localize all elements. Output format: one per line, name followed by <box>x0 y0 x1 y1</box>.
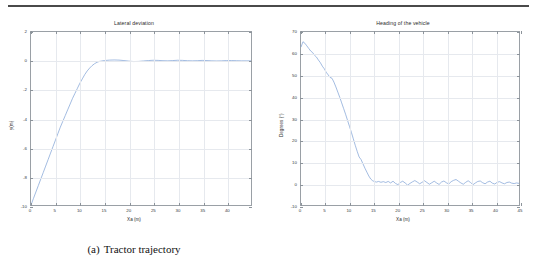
x-tick-label: 45 <box>518 208 523 213</box>
gridline-vertical <box>80 32 81 205</box>
x-tick <box>521 203 522 206</box>
x-tick <box>399 203 400 206</box>
gridline-vertical <box>154 32 155 205</box>
x-tick-top <box>325 31 326 34</box>
x-tick-top <box>423 31 424 34</box>
x-tick-top <box>179 31 180 34</box>
y-tick <box>30 149 33 150</box>
x-tick-label: 10 <box>346 208 351 213</box>
y-tick-label: 0 <box>283 182 297 187</box>
y-tick-label: -4 <box>13 116 27 121</box>
y-tick <box>30 61 33 62</box>
y-tick-right <box>517 98 520 99</box>
gridline-horizontal <box>301 141 519 142</box>
x-tick-label: 0 <box>29 208 31 213</box>
x-tick <box>154 203 155 206</box>
x-tick <box>130 203 131 206</box>
gridline-horizontal <box>301 98 519 99</box>
axes-heading <box>300 31 520 206</box>
x-tick <box>448 203 449 206</box>
y-tick <box>300 120 303 121</box>
y-tick-right <box>249 149 252 150</box>
x-tick-top <box>154 31 155 34</box>
caption-a-text: Tractor trajectory <box>104 243 181 255</box>
y-tick <box>300 163 303 164</box>
x-tick-label: 20 <box>395 208 400 213</box>
heading-plot: Heading of the vehicle Xa (m) Degrees (°… <box>269 12 537 227</box>
y-tick <box>300 141 303 142</box>
gridline-vertical <box>130 32 131 205</box>
gridline-horizontal <box>301 185 519 186</box>
axes-lateral-deviation <box>30 31 252 206</box>
x-tick <box>350 203 351 206</box>
y-tick-right <box>517 54 520 55</box>
gridline-horizontal <box>301 54 519 55</box>
x-tick-top <box>130 31 131 34</box>
y-tick-label: 40 <box>283 94 297 99</box>
caption-panel-a: (a)Tractor trajectory <box>0 243 268 255</box>
x-tick-top <box>350 31 351 34</box>
gridline-vertical <box>179 32 180 205</box>
x-tick <box>31 203 32 206</box>
x-tick-top <box>105 31 106 34</box>
gridline-vertical <box>448 32 449 205</box>
x-tick-label: 15 <box>371 208 376 213</box>
gridline-vertical <box>350 32 351 205</box>
y-tick-label: 0 <box>13 58 27 63</box>
x-tick-top <box>374 31 375 34</box>
gridline-horizontal <box>301 76 519 77</box>
y-tick-label: -2 <box>13 87 27 92</box>
panel-b-figure: Heading of the vehicle Xa (m) Degrees (°… <box>269 12 537 227</box>
gridline-horizontal <box>31 90 251 91</box>
x-tick-label: 35 <box>200 208 205 213</box>
y-tick-right <box>517 163 520 164</box>
x-tick-label: 40 <box>225 208 230 213</box>
y-tick <box>300 54 303 55</box>
y-tick <box>300 76 303 77</box>
gridline-horizontal <box>31 149 251 150</box>
y-tick-label: -6 <box>13 145 27 150</box>
lateral-deviation-plot: Lateral deviation Xa (m) y(m) 0510152025… <box>0 12 268 227</box>
y-tick-label: 30 <box>283 116 297 121</box>
x-tick <box>80 203 81 206</box>
y-tick-right <box>249 178 252 179</box>
gridline-vertical <box>399 32 400 205</box>
x-tick-top <box>448 31 449 34</box>
y-tick-label: -10 <box>13 204 27 209</box>
y-tick-right <box>517 185 520 186</box>
gridline-vertical <box>423 32 424 205</box>
gridline-horizontal <box>301 163 519 164</box>
gridline-vertical <box>204 32 205 205</box>
y-tick <box>300 98 303 99</box>
figure-page: Lateral deviation Xa (m) y(m) 0510152025… <box>0 0 537 262</box>
gridline-vertical <box>105 32 106 205</box>
x-tick-label: 5 <box>53 208 55 213</box>
top-horizontal-rule <box>8 5 529 7</box>
y-axis-title-lateral: y(m) <box>9 121 14 130</box>
y-tick <box>30 32 33 33</box>
gridline-horizontal <box>31 120 251 121</box>
gridline-vertical <box>374 32 375 205</box>
y-tick-right <box>249 32 252 33</box>
gridline-vertical <box>325 32 326 205</box>
x-tick <box>325 203 326 206</box>
y-tick-right <box>517 32 520 33</box>
y-tick <box>30 178 33 179</box>
x-tick <box>179 203 180 206</box>
y-tick-label: 10 <box>283 160 297 165</box>
x-tick <box>105 203 106 206</box>
y-tick-label: 60 <box>283 50 297 55</box>
x-tick-label: 0 <box>299 208 301 213</box>
x-tick-label: 40 <box>493 208 498 213</box>
panel-a-figure: Lateral deviation Xa (m) y(m) 0510152025… <box>0 12 268 227</box>
y-tick-label: 50 <box>283 72 297 77</box>
x-tick-top <box>204 31 205 34</box>
x-tick <box>472 203 473 206</box>
x-tick-top <box>521 31 522 34</box>
gridline-horizontal <box>31 61 251 62</box>
gridline-horizontal <box>31 178 251 179</box>
y-tick-label: 20 <box>283 138 297 143</box>
x-tick-label: 10 <box>77 208 82 213</box>
y-tick <box>30 120 33 121</box>
x-tick <box>301 203 302 206</box>
